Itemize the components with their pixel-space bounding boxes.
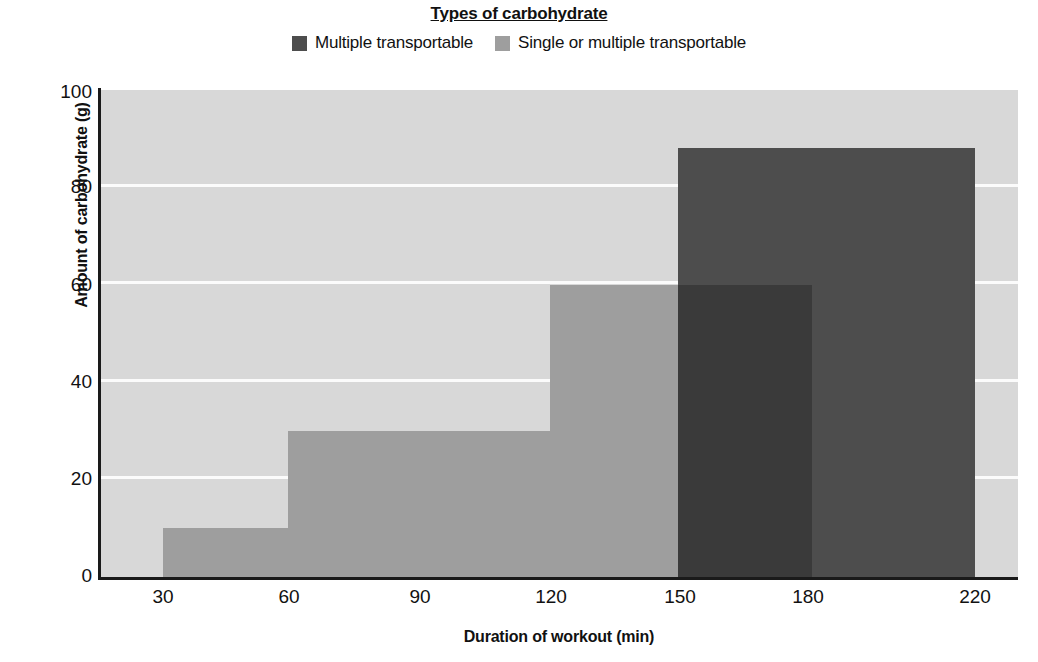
legend-entries: Multiple transportable Single or multipl… [0, 33, 1038, 53]
chart-legend: Types of carbohydrate Multiple transport… [0, 4, 1038, 53]
x-tick-180: 180 [773, 586, 843, 608]
y-tick-20: 20 [2, 468, 92, 490]
y-tick-40: 40 [2, 371, 92, 393]
bar-60-120 [288, 431, 550, 577]
chart-figure: Types of carbohydrate Multiple transport… [0, 0, 1038, 662]
x-axis-title: Duration of workout (min) [100, 628, 1018, 646]
bar-30-60 [163, 528, 288, 577]
y-axis-ticks: 100 80 60 40 20 0 [0, 0, 92, 662]
bar-overlap-150-180 [678, 285, 812, 577]
x-tick-60: 60 [254, 586, 324, 608]
x-tick-30: 30 [128, 586, 198, 608]
legend-label-multiple-transportable: Multiple transportable [315, 33, 473, 53]
x-axis-line [98, 577, 1018, 580]
x-tick-220: 220 [940, 586, 1010, 608]
x-tick-120: 120 [516, 586, 586, 608]
legend-swatch-dark [292, 36, 307, 51]
x-tick-150: 150 [645, 586, 715, 608]
legend-entry-multiple-transportable: Multiple transportable [292, 33, 473, 53]
legend-title: Types of carbohydrate [431, 4, 608, 24]
x-tick-90: 90 [385, 586, 455, 608]
legend-swatch-light [495, 36, 510, 51]
y-tick-60: 60 [2, 274, 92, 296]
legend-entry-single-or-multiple-transportable: Single or multiple transportable [495, 33, 746, 53]
y-axis-line [98, 88, 101, 580]
plot-area [101, 90, 1018, 577]
y-tick-80: 80 [2, 176, 92, 198]
legend-label-single-or-multiple-transportable: Single or multiple transportable [518, 33, 746, 53]
y-tick-100: 100 [2, 81, 92, 103]
y-tick-0: 0 [2, 565, 92, 587]
